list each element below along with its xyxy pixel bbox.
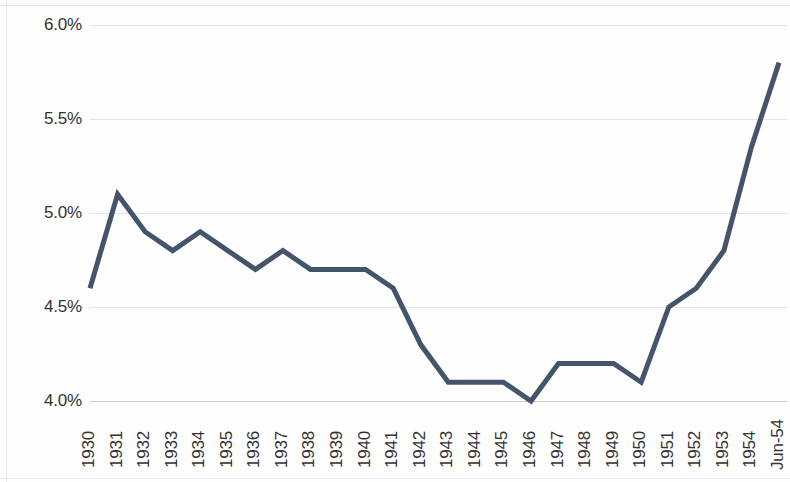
- x-tick-label: 1935: [218, 431, 235, 468]
- x-tick-label: 1949: [604, 431, 621, 468]
- x-tick-label: 1946: [521, 431, 538, 468]
- x-tick-label: 1940: [356, 431, 373, 468]
- x-tick-label: 1944: [466, 431, 483, 468]
- x-tick-label: 1941: [383, 431, 400, 468]
- x-tick-label: 1937: [273, 431, 290, 468]
- x-axis-tick-labels: 1930193119321933193419351936193719381939…: [0, 404, 790, 482]
- x-tick-label: 1952: [686, 431, 703, 468]
- x-tick-label: 1954: [741, 431, 758, 468]
- plot-area: 6.0%5.5%5.0%4.5%4.0% 1930193119321933193…: [0, 0, 790, 482]
- x-tick-label: 1938: [300, 431, 317, 468]
- x-tick-label: Jun-54: [769, 419, 786, 470]
- x-tick-label: 1951: [659, 431, 676, 468]
- x-tick-label: 1933: [163, 431, 180, 468]
- x-tick-label: 1931: [108, 431, 125, 468]
- x-tick-label: 1942: [411, 431, 428, 468]
- x-tick-label: 1930: [80, 431, 97, 468]
- x-tick-label: 1953: [714, 431, 731, 468]
- x-tick-label: 1939: [328, 431, 345, 468]
- x-tick-label: 1948: [576, 431, 593, 468]
- x-tick-label: 1934: [190, 431, 207, 468]
- x-tick-label: 1932: [135, 431, 152, 468]
- x-tick-label: 1947: [549, 431, 566, 468]
- chart-container: 6.0%5.5%5.0%4.5%4.0% 1930193119321933193…: [0, 0, 790, 482]
- series-polyline: [90, 63, 779, 401]
- x-tick-label: 1936: [245, 431, 262, 468]
- x-tick-label: 1945: [493, 431, 510, 468]
- x-tick-label: 1950: [631, 431, 648, 468]
- x-tick-label: 1943: [438, 431, 455, 468]
